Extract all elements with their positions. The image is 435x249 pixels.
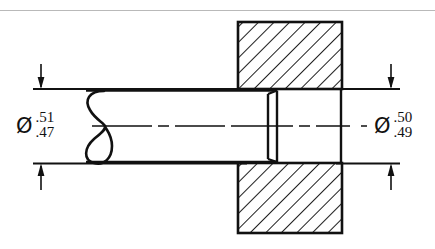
hatch-fill-top (238, 22, 342, 89)
lower-limit-left: .47 (36, 125, 55, 140)
arrowhead-left-bottom (38, 164, 45, 177)
hatch-fill-bottom (238, 163, 342, 233)
dimension-label-left: Ø .51 .47 (16, 110, 54, 141)
arrowhead-right-bottom (388, 164, 395, 177)
lower-limit-right: .49 (394, 125, 413, 140)
arrowhead-right-top (388, 77, 395, 89)
upper-limit-left: .51 (36, 110, 55, 125)
diameter-symbol-left: Ø (16, 116, 36, 137)
drawing-canvas: Ø .51 .47 Ø .50 .49 (0, 0, 435, 249)
dimension-label-right: Ø .50 .49 (374, 110, 412, 141)
dimension-left (33, 64, 247, 190)
plate-bottom-section (238, 163, 342, 233)
upper-limit-right: .50 (394, 110, 413, 125)
arrowhead-left-top (38, 77, 45, 89)
plate-top-section (238, 22, 342, 89)
tolerance-stack-right: .50 .49 (394, 110, 413, 141)
tolerance-stack-left: .51 .47 (36, 110, 55, 141)
diameter-symbol-right: Ø (374, 116, 394, 137)
conventional-break-symbol (86, 91, 112, 164)
technical-drawing-svg (0, 0, 435, 249)
